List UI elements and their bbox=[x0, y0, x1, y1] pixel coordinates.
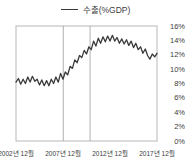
y-tick-label-12%: 12% bbox=[159, 50, 185, 59]
y-tick-label-2%: 2% bbox=[159, 122, 185, 131]
y-tick-label-8%: 8% bbox=[159, 79, 185, 88]
y-tick-label-14%: 14% bbox=[159, 36, 185, 45]
x-tick-label-4: 2017년 12월 bbox=[127, 150, 187, 158]
plot-svg bbox=[15, 25, 159, 143]
y-tick-label-4%: 4% bbox=[159, 108, 185, 117]
y-tick-label-10%: 10% bbox=[159, 65, 185, 74]
export-gdp-chart: 수출(%GDP) 0%2%4%6%8%10%12%14%16% 2002년 12… bbox=[0, 0, 191, 165]
y-tick-label-0%: 0% bbox=[159, 137, 185, 146]
y-tick-label-16%: 16% bbox=[159, 22, 185, 31]
legend: 수출(%GDP) bbox=[0, 3, 191, 15]
export-line-series bbox=[16, 35, 157, 85]
y-tick-label-6%: 6% bbox=[159, 93, 185, 102]
legend-label: 수출(%GDP) bbox=[83, 3, 131, 15]
legend-line-marker bbox=[61, 9, 78, 10]
